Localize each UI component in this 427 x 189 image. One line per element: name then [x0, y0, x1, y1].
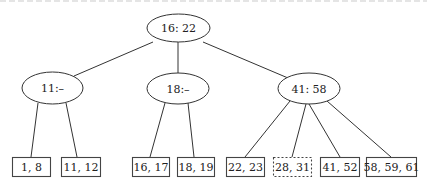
edge-n18-l4 — [188, 103, 194, 157]
leaf-label: 18, 19 — [179, 161, 214, 174]
leaf-label: 41, 52 — [323, 161, 358, 174]
edge-n18-l3 — [150, 103, 165, 157]
edge-n41-l7 — [309, 104, 340, 157]
leaf-label: 11, 12 — [64, 161, 99, 174]
leaf-label: 16, 17 — [134, 161, 169, 174]
leaf-node: 58, 59, 61 — [364, 158, 420, 177]
internal-node-41: 41: 58 — [278, 73, 340, 104]
leaf-label: 58, 59, 61 — [364, 161, 420, 174]
edge-root-n11 — [74, 42, 153, 76]
internal-node-18: 18:– — [147, 73, 209, 104]
leaf-node-dashed: 28, 31 — [274, 158, 312, 177]
internal-node-11-label: 11:– — [41, 82, 65, 95]
leaf-label: 1, 8 — [21, 161, 42, 174]
leaf-node: 41, 52 — [321, 158, 360, 177]
leaf-node: 1, 8 — [13, 158, 51, 177]
edge-n11-l1 — [31, 103, 38, 157]
internal-node-11: 11:– — [22, 72, 83, 104]
edge-n41-l6 — [292, 104, 306, 157]
edge-n41-l5 — [245, 101, 290, 157]
edge-n11-l2 — [66, 103, 77, 157]
internal-node-18-label: 18:– — [166, 83, 190, 96]
edge-root-n41 — [203, 42, 288, 78]
edge-n41-l8 — [327, 101, 391, 157]
b-tree-diagram: 16: 22 11:– 18:– 41: 58 1, 8 11, 12 16, … — [0, 0, 427, 189]
internal-node-41-label: 41: 58 — [291, 83, 326, 96]
root-node: 16: 22 — [147, 14, 210, 42]
leaf-label: 28, 31 — [275, 161, 310, 174]
leaf-node: 16, 17 — [133, 158, 170, 177]
edges-leaves — [31, 101, 391, 157]
leaf-node: 22, 23 — [227, 158, 265, 177]
leaf-node: 18, 19 — [178, 158, 215, 177]
root-node-label: 16: 22 — [161, 22, 196, 35]
leaf-label: 22, 23 — [228, 161, 263, 174]
leaf-node: 11, 12 — [62, 158, 101, 177]
